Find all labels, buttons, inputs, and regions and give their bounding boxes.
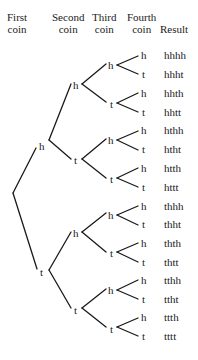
node-fourth-5: h xyxy=(141,124,147,136)
node-first-h: h xyxy=(39,140,45,152)
result-8: httt xyxy=(164,181,179,193)
result-4: hhtt xyxy=(164,106,181,118)
node-fourth-3: h xyxy=(141,87,147,99)
result-7: htth xyxy=(164,162,181,174)
node-fourth-7: h xyxy=(141,162,147,174)
node-third-4: t xyxy=(110,173,113,185)
node-third-1: h xyxy=(108,59,114,71)
result-16: tttt xyxy=(164,330,176,342)
node-fourth-13: h xyxy=(141,274,147,286)
result-6: htht xyxy=(164,143,181,155)
node-second-th: h xyxy=(73,227,79,239)
node-fourth-10: t xyxy=(142,218,145,230)
node-third-6: t xyxy=(110,247,113,259)
node-third-2: t xyxy=(110,98,113,110)
node-fourth-8: t xyxy=(142,181,145,193)
node-fourth-14: t xyxy=(142,293,145,305)
result-3: hhth xyxy=(164,87,184,99)
node-third-5: h xyxy=(108,209,114,221)
result-9: thhh xyxy=(164,200,184,212)
node-fourth-9: h xyxy=(141,200,147,212)
node-fourth-12: t xyxy=(142,256,145,268)
node-fourth-15: h xyxy=(141,311,147,323)
node-second-hh: h xyxy=(73,79,79,91)
node-second-ht: t xyxy=(74,154,77,166)
node-fourth-6: t xyxy=(142,143,145,155)
result-2: hhht xyxy=(164,68,184,80)
result-14: ttht xyxy=(164,293,179,305)
node-third-3: h xyxy=(108,134,114,146)
result-10: thht xyxy=(164,218,181,230)
result-1: hhhh xyxy=(164,49,186,61)
node-first-t: t xyxy=(40,266,43,278)
node-fourth-1: h xyxy=(141,49,147,61)
node-fourth-4: t xyxy=(142,106,145,118)
result-15: ttth xyxy=(164,311,179,323)
result-5: hthh xyxy=(164,124,184,136)
result-13: tthh xyxy=(164,274,181,286)
node-second-tt: t xyxy=(74,304,77,316)
node-fourth-16: t xyxy=(142,330,145,342)
node-third-7: h xyxy=(108,284,114,296)
result-12: thtt xyxy=(164,256,179,268)
node-fourth-2: t xyxy=(142,68,145,80)
node-fourth-11: h xyxy=(141,237,147,249)
node-third-8: t xyxy=(110,323,113,335)
result-11: thth xyxy=(164,237,181,249)
